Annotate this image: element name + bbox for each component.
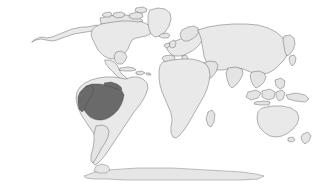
world-map-figure: World distribution map Northern South Am… [0, 0, 312, 188]
world-map-svg [0, 0, 312, 188]
island-puerto-rico [146, 73, 151, 75]
